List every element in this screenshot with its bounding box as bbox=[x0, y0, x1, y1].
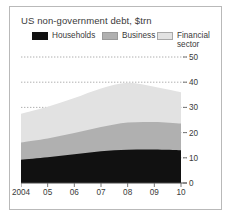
y-axis-tick-label: 30 bbox=[189, 103, 198, 112]
x-axis-tick-label: 08 bbox=[123, 188, 132, 197]
y-axis-tick-label: 40 bbox=[189, 78, 198, 87]
legend-swatch-financial-sector bbox=[157, 32, 173, 40]
y-axis-tick-label: 0 bbox=[189, 179, 194, 188]
legend-item-households: Households bbox=[32, 31, 95, 40]
legend-label-households: Households bbox=[52, 31, 95, 40]
legend-label-financial-sector: Financial sector bbox=[177, 31, 217, 50]
x-axis-tick-label: 05 bbox=[43, 188, 52, 197]
chart-plot-area: 010203040502004050607080910 bbox=[21, 55, 211, 203]
y-axis-tick-label: 20 bbox=[189, 128, 198, 137]
chart-card: US non-government debt, $trn Households … bbox=[9, 6, 222, 210]
x-axis-tick-label: 06 bbox=[70, 188, 79, 197]
legend-label-business: Business bbox=[122, 31, 155, 40]
x-axis-tick-label: 2004 bbox=[12, 188, 30, 197]
chart-legend: Households Business Financial sector bbox=[21, 31, 217, 53]
x-axis-tick-label: 07 bbox=[96, 188, 105, 197]
chart-title: US non-government debt, $trn bbox=[21, 15, 152, 26]
y-axis-tick-label: 50 bbox=[189, 53, 198, 62]
stacked-area-svg bbox=[21, 55, 211, 203]
legend-item-financial-sector: Financial sector bbox=[157, 31, 217, 50]
legend-swatch-business bbox=[102, 32, 118, 40]
y-axis-tick-label: 10 bbox=[189, 153, 198, 162]
x-axis-tick-label: 09 bbox=[150, 188, 159, 197]
legend-item-business: Business bbox=[102, 31, 155, 40]
x-axis-tick-label: 10 bbox=[176, 188, 185, 197]
legend-swatch-households bbox=[32, 32, 48, 40]
